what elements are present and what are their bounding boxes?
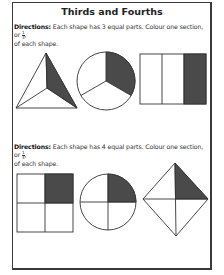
diamond-fourths[interactable] [143, 163, 208, 236]
circle-fourths[interactable] [80, 174, 136, 230]
square-fourths[interactable] [17, 174, 73, 232]
shapes-canvas [0, 0, 224, 275]
triangle-thirds[interactable] [16, 53, 77, 108]
shaded-section [108, 174, 136, 202]
shaded-section [175, 163, 208, 199]
shaded-section [45, 174, 73, 203]
rectangle-thirds[interactable] [140, 54, 206, 104]
circle-thirds[interactable] [77, 52, 135, 110]
shaded-section [184, 54, 206, 104]
